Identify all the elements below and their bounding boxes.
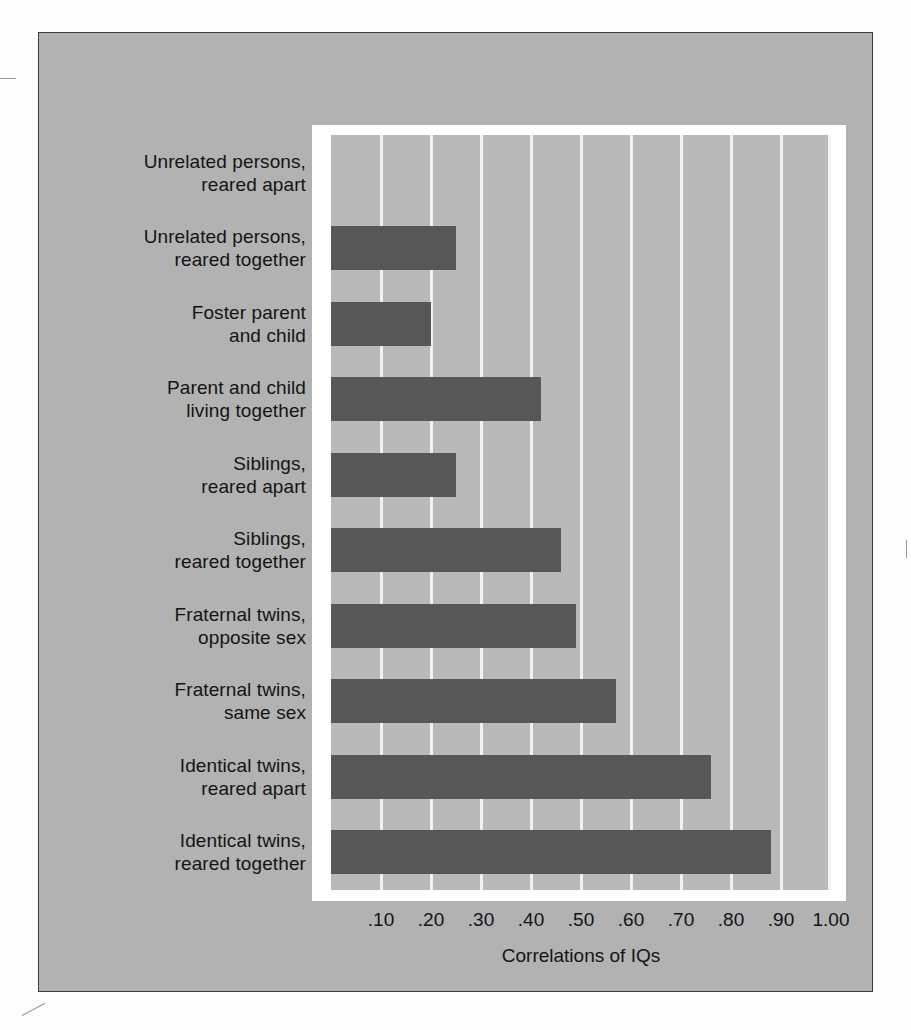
gridline	[780, 135, 783, 890]
category-label: Siblings,reared apart	[99, 452, 306, 498]
category-label-line1: Foster parent	[99, 301, 306, 324]
chart-panel: Unrelated persons,reared apartUnrelated …	[38, 32, 873, 992]
bar	[331, 679, 616, 723]
figure: Unrelated persons,reared apartUnrelated …	[0, 0, 911, 1030]
bar	[331, 453, 456, 497]
x-axis-title: Correlations of IQs	[331, 945, 831, 967]
category-label-line2: reared together	[99, 852, 306, 875]
bar	[331, 528, 561, 572]
category-label-line1: Identical twins,	[99, 754, 306, 777]
category-label: Siblings,reared together	[99, 527, 306, 573]
category-label-line1: Unrelated persons,	[99, 225, 306, 248]
category-label-line2: reared together	[99, 248, 306, 271]
x-tick-label: .60	[618, 909, 644, 931]
category-label-line2: and child	[99, 324, 306, 347]
x-tick-label: .20	[418, 909, 444, 931]
category-label-line1: Siblings,	[99, 452, 306, 475]
x-tick-label: .50	[568, 909, 594, 931]
page-edge-tick-left	[0, 78, 16, 79]
bar	[331, 226, 456, 270]
category-label-line1: Fraternal twins,	[99, 678, 306, 701]
category-label-line2: living together	[99, 399, 306, 422]
gridline	[828, 135, 831, 890]
category-label: Parent and childliving together	[99, 376, 306, 422]
category-label-line2: reared together	[99, 550, 306, 573]
plot-area	[331, 135, 831, 890]
category-label-line1: Siblings,	[99, 527, 306, 550]
bar	[331, 755, 711, 799]
category-label: Fraternal twins,opposite sex	[99, 603, 306, 649]
category-label-column: Unrelated persons,reared apartUnrelated …	[99, 135, 306, 890]
page-edge-tick-right	[906, 540, 907, 558]
bar	[331, 830, 771, 874]
gridline	[730, 135, 733, 890]
category-label-line2: opposite sex	[99, 626, 306, 649]
category-label: Identical twins,reared together	[99, 829, 306, 875]
x-tick-label: .10	[368, 909, 394, 931]
x-tick-label: .90	[768, 909, 794, 931]
category-label: Unrelated persons,reared together	[99, 225, 306, 271]
page-edge-tick-bottom	[22, 1003, 45, 1016]
category-label-line1: Identical twins,	[99, 829, 306, 852]
category-label: Unrelated persons,reared apart	[99, 150, 306, 196]
bar	[331, 302, 431, 346]
x-tick-label: .40	[518, 909, 544, 931]
category-label-line2: reared apart	[99, 777, 306, 800]
category-label-line2: same sex	[99, 701, 306, 724]
x-tick-label: .70	[668, 909, 694, 931]
category-label-line2: reared apart	[99, 173, 306, 196]
x-axis-tick-labels: .10.20.30.40.50.60.70.80.901.00	[331, 909, 831, 939]
x-tick-label: 1.00	[813, 909, 850, 931]
category-label-line1: Parent and child	[99, 376, 306, 399]
category-label: Foster parentand child	[99, 301, 306, 347]
category-label-line2: reared apart	[99, 475, 306, 498]
bar	[331, 377, 541, 421]
category-label-line1: Fraternal twins,	[99, 603, 306, 626]
category-label: Fraternal twins,same sex	[99, 678, 306, 724]
category-label-line1: Unrelated persons,	[99, 150, 306, 173]
x-tick-label: .80	[718, 909, 744, 931]
bar	[331, 604, 576, 648]
x-tick-label: .30	[468, 909, 494, 931]
category-label: Identical twins,reared apart	[99, 754, 306, 800]
